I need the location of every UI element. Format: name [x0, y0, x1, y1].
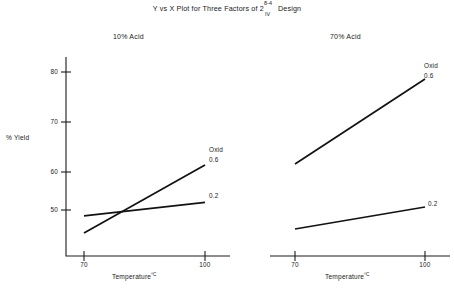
- figure-canvas: Y vs X Plot for Three Factors of 28-4IVD…: [0, 0, 454, 288]
- left-axis-lines: [66, 57, 230, 256]
- plot-vector-layer: [0, 0, 454, 288]
- right-panel-series: [295, 79, 425, 229]
- left-panel-axes: [61, 57, 230, 261]
- right-series-oxid-02: [295, 207, 425, 229]
- left-series-oxid-02: [84, 202, 205, 215]
- left-series-oxid-06: [84, 165, 205, 233]
- left-panel-series: [84, 165, 205, 233]
- right-series-oxid-06: [295, 79, 425, 164]
- right-panel-axes: [270, 251, 450, 261]
